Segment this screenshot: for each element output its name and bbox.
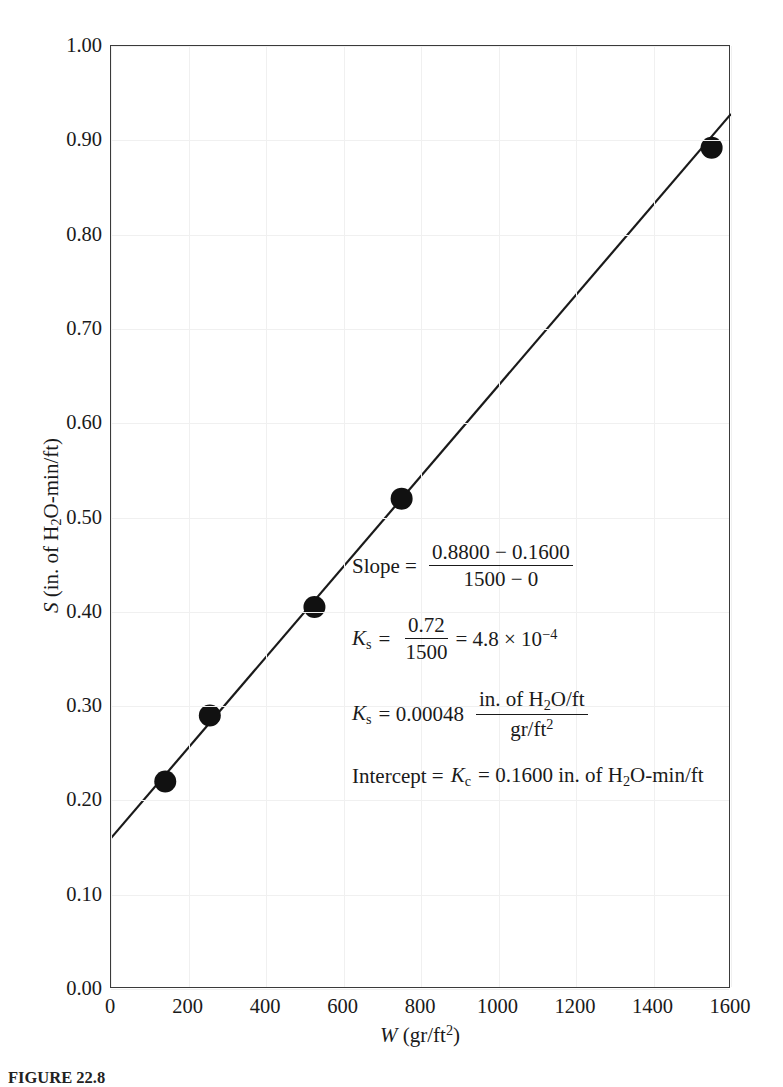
ks-calc-var-letter: K <box>352 626 366 650</box>
x-axis-units-post: ) <box>453 1023 460 1047</box>
ks-calc-denominator: 1500 <box>402 639 450 664</box>
x-axis-tick-label: 800 <box>380 996 460 1017</box>
gridline-vertical <box>421 46 422 987</box>
slope-label: Slope = <box>352 554 417 578</box>
annotation-slope: Slope = 0.8800 − 0.1600 1500 − 0 <box>352 540 744 591</box>
x-axis-tick-label: 1000 <box>458 996 538 1017</box>
y-axis-variable: S <box>39 603 63 614</box>
gridline-vertical <box>344 46 345 987</box>
slope-numerator: 0.8800 − 0.1600 <box>429 540 573 566</box>
ks-calc-equals-1: = <box>379 627 391 651</box>
x-axis-tick-label: 400 <box>225 996 305 1017</box>
gridline-vertical <box>189 46 190 987</box>
gridline-vertical <box>654 46 655 987</box>
plot-area <box>110 45 730 988</box>
ks-value-units-numerator: in. of H2O/ft <box>476 687 588 715</box>
x-axis-tick-label: 1400 <box>613 996 693 1017</box>
slope-fraction: 0.8800 − 0.1600 1500 − 0 <box>429 540 573 591</box>
y-axis-units-pre: (in. of H <box>39 526 63 603</box>
ks-value-units-denominator: gr/ft2 <box>507 715 556 741</box>
ks-calc-fraction: 0.72 1500 <box>402 613 450 664</box>
intercept-value-post: O-min/ft <box>630 763 704 787</box>
x-axis-variable: W <box>380 1023 398 1047</box>
annotation-block: Slope = 0.8800 − 0.1600 1500 − 0 Ks = 0.… <box>352 540 744 811</box>
x-axis-tick-label: 200 <box>148 996 228 1017</box>
data-point <box>303 596 325 618</box>
gridline-horizontal <box>111 46 729 47</box>
gridline-vertical <box>731 46 732 987</box>
ks-units-den-sup: 2 <box>546 716 553 732</box>
ks-units-den-pre: gr/ft <box>510 717 546 741</box>
x-axis-title: W (gr/ft2) <box>110 1022 730 1048</box>
gridline-horizontal <box>111 895 729 896</box>
gridline-horizontal <box>111 989 729 990</box>
x-axis-tick-label: 600 <box>303 996 383 1017</box>
gridline-horizontal <box>111 518 729 519</box>
intercept-variable: Kc <box>451 763 471 789</box>
intercept-label: Intercept = <box>352 764 444 788</box>
ks-calc-variable: Ks <box>352 626 372 652</box>
ks-calc-result: = 4.8 × 10−4 <box>455 626 557 651</box>
x-axis-units-pre: (gr/ft <box>397 1023 445 1047</box>
intercept-var-letter: K <box>451 763 465 787</box>
intercept-var-subscript: c <box>465 773 471 789</box>
ks-value-equals: = 0.00048 <box>379 702 464 726</box>
intercept-value: = 0.1600 in. of H2O-min/ft <box>478 763 703 789</box>
gridline-horizontal <box>111 329 729 330</box>
gridline-horizontal <box>111 140 729 141</box>
annotation-intercept: Intercept = Kc = 0.1600 in. of H2O-min/f… <box>352 763 744 789</box>
x-axis-tick-labels: 02004006008001000120014001600 <box>110 996 730 1024</box>
y-axis-title-wrap: S (in. of H2O-min/ft) <box>30 60 60 960</box>
data-point <box>199 705 221 727</box>
ks-calc-exponent: −4 <box>542 626 557 642</box>
y-axis-title: S (in. of H2O-min/ft) <box>39 265 66 785</box>
x-axis-tick-label: 1200 <box>535 996 615 1017</box>
ks-value-units-fraction: in. of H2O/ft gr/ft2 <box>476 687 588 741</box>
y-axis-units-post: O-min/ft) <box>39 438 63 518</box>
gridline-horizontal <box>111 235 729 236</box>
caption-number: FIGURE 22.8 <box>8 1068 105 1087</box>
x-axis-tick-label: 1600 <box>690 996 770 1017</box>
ks-calc-var-subscript: s <box>366 636 372 652</box>
intercept-value-sub: 2 <box>623 773 630 789</box>
gridline-vertical <box>576 46 577 987</box>
gridline-vertical <box>266 46 267 987</box>
ks-value-variable: Ks <box>352 701 372 727</box>
gridline-vertical <box>111 46 112 987</box>
intercept-value-pre: = 0.1600 in. of H <box>478 763 623 787</box>
ks-value-var-subscript: s <box>366 711 372 727</box>
annotation-ks-value: Ks = 0.00048 in. of H2O/ft gr/ft2 <box>352 687 744 741</box>
gridline-vertical <box>499 46 500 987</box>
gridline-horizontal <box>111 423 729 424</box>
x-axis-tick-label: 0 <box>70 996 150 1017</box>
slope-denominator: 1500 − 0 <box>460 566 541 591</box>
annotation-ks-calculation: Ks = 0.72 1500 = 4.8 × 10−4 <box>352 613 744 664</box>
ks-units-num-post: O/ft <box>551 687 585 711</box>
figure-caption: FIGURE 22.8 <box>8 1068 778 1087</box>
ks-calc-numerator: 0.72 <box>405 613 448 639</box>
data-point <box>154 771 176 793</box>
y-axis-units-subscript: 2 <box>48 518 64 525</box>
y-axis-tick-label: 1.00 <box>40 35 102 56</box>
ks-value-var-letter: K <box>352 701 366 725</box>
ks-units-num-pre: in. of H <box>479 687 544 711</box>
x-axis-units-superscript: 2 <box>446 1022 453 1038</box>
ks-units-num-sub: 2 <box>544 697 551 713</box>
ks-calc-equals-2: = 4.8 × 10 <box>455 627 542 651</box>
data-point <box>391 488 413 510</box>
